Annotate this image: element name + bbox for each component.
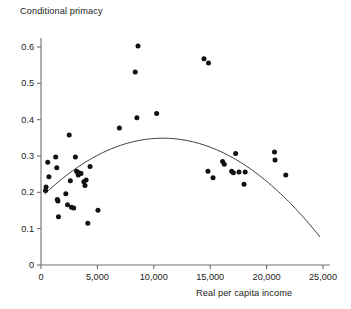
data-point xyxy=(73,155,78,160)
tick-marks xyxy=(37,47,323,269)
data-point xyxy=(45,160,50,165)
data-point xyxy=(206,60,211,65)
data-point xyxy=(133,70,138,75)
data-point xyxy=(55,199,60,204)
data-point xyxy=(205,169,210,174)
data-point xyxy=(68,178,73,183)
data-point xyxy=(202,56,207,61)
data-point xyxy=(84,177,89,182)
data-point xyxy=(243,169,248,174)
x-tick-label: 5,000 xyxy=(86,272,109,282)
data-point xyxy=(71,205,76,210)
data-point xyxy=(46,174,51,179)
data-point xyxy=(222,162,227,167)
axis-lines xyxy=(41,38,330,265)
data-point xyxy=(95,208,100,213)
x-tick-label: 10,000 xyxy=(140,272,168,282)
data-point xyxy=(236,169,241,174)
data-point xyxy=(63,191,68,196)
data-point xyxy=(233,151,238,156)
data-point xyxy=(56,214,61,219)
data-point xyxy=(211,175,216,180)
y-tick-label: 0.2 xyxy=(21,187,34,197)
y-tick-label: 0.5 xyxy=(21,78,34,88)
x-tick-label: 20,000 xyxy=(253,272,281,282)
data-point xyxy=(283,172,288,177)
data-point xyxy=(154,111,159,116)
data-point xyxy=(88,164,93,169)
data-point xyxy=(273,158,278,163)
y-tick-label: 0.1 xyxy=(21,224,34,234)
data-point xyxy=(117,126,122,131)
data-point xyxy=(82,183,87,188)
x-tick-label: 0 xyxy=(38,272,43,282)
data-point xyxy=(54,165,59,170)
y-tick-label: 0.3 xyxy=(21,151,34,161)
scatter-plot-figure: Conditional primacy Real per capita inco… xyxy=(0,0,351,309)
y-tick-label: 0.6 xyxy=(21,42,34,52)
data-point-group xyxy=(43,43,288,225)
data-point xyxy=(272,150,277,155)
data-point xyxy=(53,155,58,160)
data-point xyxy=(231,170,236,175)
data-point xyxy=(242,182,247,187)
x-tick-label: 15,000 xyxy=(196,272,224,282)
data-point xyxy=(44,184,49,189)
data-point xyxy=(136,43,141,48)
data-point xyxy=(67,132,72,137)
y-tick-label: 0.4 xyxy=(21,115,34,125)
data-point xyxy=(85,221,90,226)
x-tick-label: 25,000 xyxy=(309,272,337,282)
data-point xyxy=(134,115,139,120)
data-point xyxy=(79,171,84,176)
y-tick-label: 0 xyxy=(29,260,34,270)
plot-canvas xyxy=(0,0,351,309)
